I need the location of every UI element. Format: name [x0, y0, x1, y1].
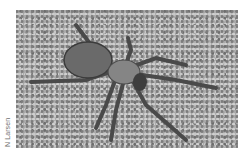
photo-credit: N Larsen: [4, 118, 11, 147]
spider-abdomen: [64, 42, 112, 78]
spider-chelicerae: [133, 73, 147, 91]
spider-photo: [16, 10, 238, 148]
spider-illustration: [16, 10, 238, 148]
